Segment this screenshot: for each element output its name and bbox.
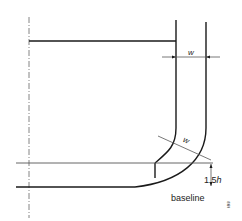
figure-id: 0808 (227, 201, 231, 208)
w-dimension-top: w (162, 48, 220, 59)
outer-stroke-edge (135, 22, 206, 187)
height-dimension: 1.5h (204, 164, 222, 186)
w-label-diagonal: w (182, 135, 192, 146)
baseline-label: baseline (171, 193, 205, 203)
height-label: 1.5h (204, 175, 222, 185)
w-label-top: w (188, 48, 195, 57)
technical-diagram: w w 1.5h baseline 0808 (0, 0, 242, 221)
